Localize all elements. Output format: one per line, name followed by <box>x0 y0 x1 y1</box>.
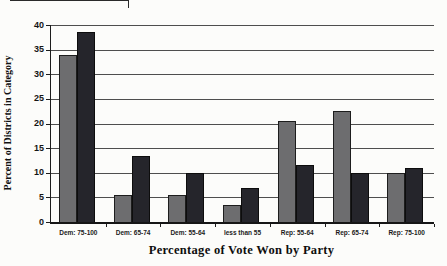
bar-dark-series-3 <box>241 188 259 222</box>
bar-gray-series-2 <box>168 195 186 222</box>
x-axis-title: Percentage of Vote Won by Party <box>50 243 433 258</box>
x-category-label-1: Dem: 65-74 <box>106 229 161 236</box>
y-tick-label-0: 0 <box>24 217 44 228</box>
scan-artifact-line <box>10 0 129 1</box>
bar-gray-series-1 <box>114 195 132 222</box>
y-tick-label-20: 20 <box>24 118 44 129</box>
y-tick-label-10: 10 <box>24 167 44 178</box>
gridline-25 <box>51 99 434 100</box>
x-tick-mark <box>379 224 380 227</box>
bar-dark-series-1 <box>132 156 150 222</box>
bar-gray-series-0 <box>59 55 77 222</box>
y-tick-mark <box>46 50 50 51</box>
x-tick-mark <box>434 224 435 227</box>
bar-dark-series-4 <box>296 165 314 222</box>
bar-dark-series-5 <box>351 173 369 222</box>
plot-area: Dem: 75-100Dem: 65-74Dem: 55-64less than… <box>50 25 434 224</box>
x-tick-mark <box>215 224 216 227</box>
y-axis-title: Percent of Districts in Category <box>2 56 13 191</box>
x-category-label-0: Dem: 75-100 <box>51 229 106 236</box>
y-tick-label-15: 15 <box>24 143 44 154</box>
x-category-label-2: Dem: 55-64 <box>160 229 215 236</box>
x-category-label-6: Rep: 75-100 <box>379 229 434 236</box>
gridline-30 <box>51 74 434 75</box>
gridline-35 <box>51 50 434 51</box>
bar-gray-series-6 <box>387 173 405 222</box>
y-tick-label-25: 25 <box>24 93 44 104</box>
y-tick-mark <box>46 74 50 75</box>
x-category-label-4: Rep: 55-64 <box>270 229 325 236</box>
y-tick-mark <box>46 173 50 174</box>
y-tick-mark <box>46 148 50 149</box>
y-tick-mark <box>46 99 50 100</box>
y-tick-label-40: 40 <box>24 20 44 31</box>
chart-figure: Percent of Districts in Category Dem: 75… <box>0 0 447 266</box>
gridline-10 <box>51 173 434 174</box>
bar-dark-series-2 <box>186 173 204 222</box>
bar-gray-series-5 <box>333 111 351 222</box>
y-tick-label-5: 5 <box>24 192 44 203</box>
bar-gray-series-4 <box>278 121 296 222</box>
x-tick-mark <box>160 224 161 227</box>
bar-dark-series-6 <box>405 168 423 222</box>
y-tick-mark <box>46 25 50 26</box>
gridline-15 <box>51 148 434 149</box>
y-tick-label-30: 30 <box>24 69 44 80</box>
y-tick-label-35: 35 <box>24 44 44 55</box>
y-tick-mark <box>46 124 50 125</box>
x-category-label-3: less than 55 <box>215 229 270 236</box>
x-tick-mark <box>325 224 326 227</box>
gridline-40 <box>51 25 434 26</box>
x-tick-mark <box>270 224 271 227</box>
bar-dark-series-0 <box>77 32 95 222</box>
y-tick-mark <box>46 222 50 223</box>
gridline-20 <box>51 124 434 125</box>
x-category-label-5: Rep: 65-74 <box>325 229 380 236</box>
scan-artifact-line-stub <box>128 0 129 8</box>
y-tick-mark <box>46 197 50 198</box>
bar-gray-series-3 <box>223 205 241 222</box>
x-tick-mark <box>106 224 107 227</box>
